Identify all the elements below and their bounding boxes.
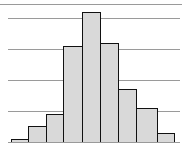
histogram-bar [100, 43, 119, 142]
histogram-bar [118, 89, 137, 142]
histogram-bar [136, 108, 158, 142]
histogram-bar [157, 133, 175, 142]
top-frame-line [0, 4, 182, 5]
histogram-bar [28, 126, 47, 142]
histogram-bar [46, 114, 64, 142]
x-axis-baseline [8, 142, 180, 143]
histogram-bar [63, 46, 83, 142]
histogram-chart [0, 0, 194, 150]
histogram-bar [82, 12, 101, 142]
